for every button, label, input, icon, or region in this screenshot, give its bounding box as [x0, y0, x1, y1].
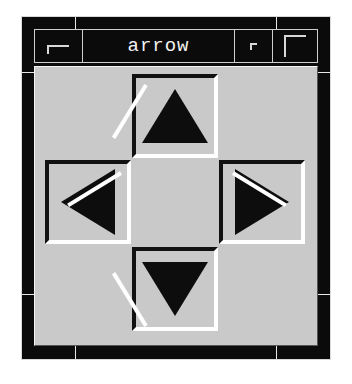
arrow-left-button[interactable] [45, 160, 131, 244]
maximize-button[interactable] [273, 30, 317, 62]
arrow-down-highlight [112, 272, 148, 327]
resize-grip-right-top[interactable] [317, 72, 330, 73]
page-canvas: arrow [0, 0, 352, 384]
maximize-icon [284, 35, 306, 57]
window-title: arrow [83, 30, 235, 62]
window-menu-button[interactable] [35, 30, 83, 62]
arrow-up-button[interactable] [132, 74, 218, 158]
application-window: arrow [21, 16, 331, 360]
arrow-right-highlight [232, 171, 287, 207]
resize-grip-right-bottom[interactable] [317, 294, 330, 295]
arrow-up-highlight [112, 84, 148, 139]
minimize-button[interactable] [235, 30, 273, 62]
minimize-icon [250, 43, 257, 50]
title-bar[interactable]: arrow [34, 29, 318, 63]
window-menu-icon [47, 45, 69, 54]
resize-grip-bottom-right[interactable] [276, 346, 277, 359]
arrow-left-highlight [67, 171, 122, 207]
arrow-up-icon [142, 89, 208, 143]
arrow-down-button[interactable] [132, 247, 218, 331]
arrow-right-button[interactable] [219, 160, 305, 244]
arrow-left-icon [61, 169, 115, 235]
arrow-down-icon [142, 262, 208, 316]
resize-grip-bottom-left[interactable] [75, 346, 76, 359]
client-area [34, 66, 318, 346]
arrow-right-icon [235, 169, 289, 235]
